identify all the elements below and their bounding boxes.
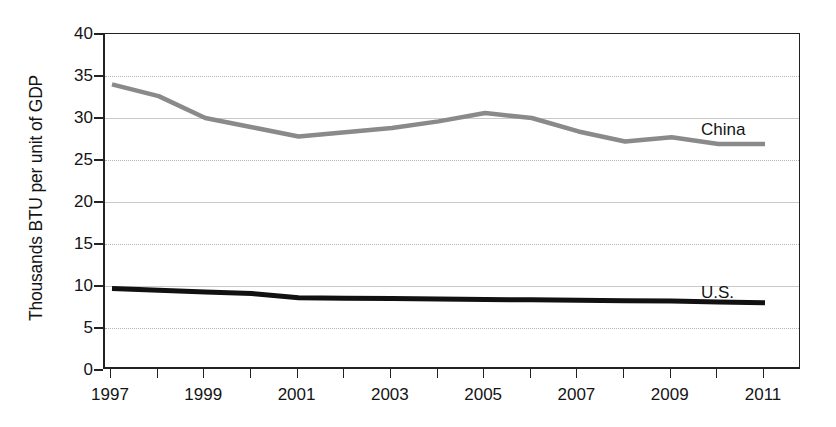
x-tick-label: 2005	[448, 386, 518, 403]
y-tick-mark	[94, 285, 103, 287]
x-tick-mark	[763, 369, 764, 378]
y-tick-mark	[94, 159, 103, 161]
y-tick-label: 10	[47, 277, 93, 294]
series-label-us: U.S.	[701, 284, 734, 301]
y-tick-label: 0	[47, 361, 93, 378]
y-tick-label: 25	[47, 151, 93, 168]
x-tick-mark	[203, 369, 204, 378]
x-tick-label: 1999	[168, 386, 238, 403]
x-tick-mark	[576, 369, 577, 378]
y-tick-mark	[94, 75, 103, 77]
y-tick-label: 15	[47, 235, 93, 252]
y-tick-mark	[94, 33, 103, 35]
series-line-china	[112, 84, 765, 144]
y-tick-mark	[94, 201, 103, 203]
series-line-us	[112, 289, 765, 303]
series-label-china: China	[701, 121, 745, 138]
x-tick-label: 2007	[541, 386, 611, 403]
x-tick-mark	[670, 369, 671, 378]
x-tick-mark	[343, 369, 344, 378]
x-tick-label: 2011	[728, 386, 798, 403]
x-tick-label: 2003	[355, 386, 425, 403]
series-lines	[105, 34, 799, 367]
x-tick-label: 2001	[262, 386, 332, 403]
x-tick-mark	[390, 369, 391, 378]
x-tick-label: 1997	[75, 386, 145, 403]
x-tick-mark	[157, 369, 158, 378]
y-axis-title: Thousands BTU per unit of GDP	[23, 33, 49, 363]
x-tick-mark	[623, 369, 624, 378]
x-tick-label: 2009	[635, 386, 705, 403]
y-tick-label: 35	[47, 67, 93, 84]
y-tick-mark	[94, 117, 103, 119]
x-tick-mark	[716, 369, 717, 378]
x-tick-mark	[530, 369, 531, 378]
y-tick-label: 30	[47, 109, 93, 126]
plot-area	[103, 33, 800, 369]
x-tick-mark	[297, 369, 298, 378]
x-tick-mark	[110, 369, 111, 378]
x-tick-mark	[483, 369, 484, 378]
y-tick-label: 5	[47, 319, 93, 336]
x-tick-mark	[437, 369, 438, 378]
plot-inner	[105, 34, 799, 367]
x-tick-mark	[250, 369, 251, 378]
y-tick-mark	[94, 369, 103, 371]
y-tick-mark	[94, 243, 103, 245]
y-tick-mark	[94, 327, 103, 329]
energy-intensity-line-chart: Thousands BTU per unit of GDP 0510152025…	[0, 0, 836, 427]
y-tick-label: 40	[47, 25, 93, 42]
y-tick-label: 20	[47, 193, 93, 210]
